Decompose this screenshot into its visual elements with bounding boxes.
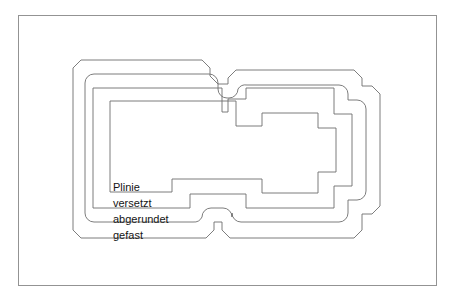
technical-drawing-figure: Plinie versetzt abgerundet gefast — [0, 0, 458, 300]
label-gefast: gefast — [113, 229, 143, 241]
drawing-frame — [19, 16, 437, 286]
label-versetzt: versetzt — [113, 197, 152, 209]
plinie-outline — [110, 101, 336, 193]
drawing-canvas: Plinie versetzt abgerundet gefast — [0, 0, 458, 300]
label-plinie: Plinie — [113, 181, 140, 193]
gefast-outline — [73, 60, 380, 238]
label-abgerundet: abgerundet — [113, 213, 169, 225]
